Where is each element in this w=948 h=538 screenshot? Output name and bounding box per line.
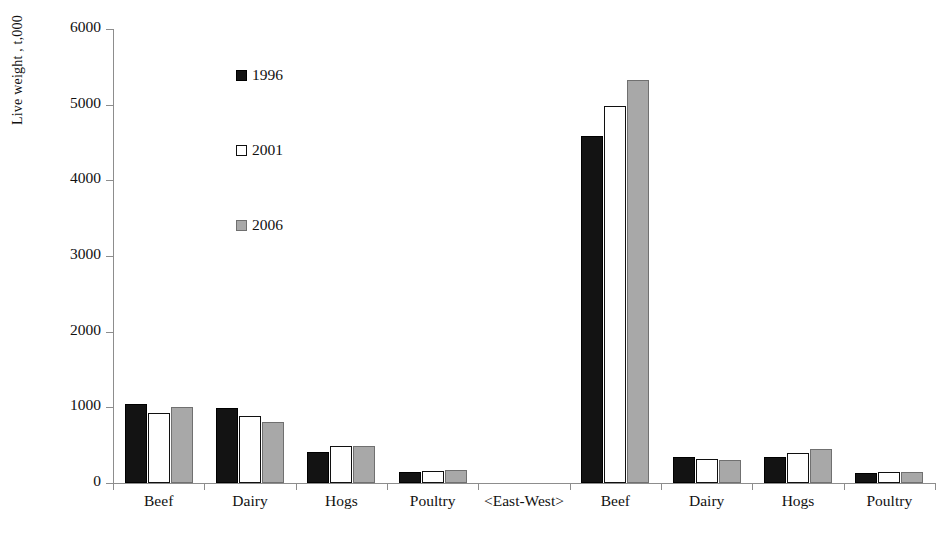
legend-label: 2001 xyxy=(252,141,283,159)
bar-2001-hogs-2 xyxy=(330,446,352,483)
y-tick-mark xyxy=(106,256,113,257)
x-axis-label-3: Poultry xyxy=(387,492,478,510)
bar-chart: Live weight , t,000 60005000400030002000… xyxy=(0,0,948,538)
bar-2006-dairy-6 xyxy=(719,460,741,483)
bar-2006-beef-5 xyxy=(627,80,649,483)
y-tick-label: 5000 xyxy=(70,94,101,112)
x-axis-label-6: Dairy xyxy=(661,492,752,510)
y-axis-title: Live weight , t,000 xyxy=(10,0,26,190)
x-axis-label-1: Dairy xyxy=(204,492,295,510)
legend-item-2006: 2006 xyxy=(236,216,283,234)
y-tick-mark xyxy=(106,29,113,30)
x-axis-line xyxy=(113,483,936,484)
y-tick-label: 3000 xyxy=(70,245,101,263)
x-axis-label-2: Hogs xyxy=(296,492,387,510)
legend-item-2001: 2001 xyxy=(236,141,283,159)
x-tick-mark xyxy=(570,483,571,490)
bar-2006-hogs-2 xyxy=(353,446,375,483)
bar-2001-beef-5 xyxy=(604,106,626,483)
x-tick-mark xyxy=(661,483,662,490)
y-tick-label: 6000 xyxy=(70,18,101,36)
y-tick-mark xyxy=(106,483,113,484)
bar-2006-beef-0 xyxy=(171,407,193,483)
bar-1996-dairy-6 xyxy=(673,457,695,483)
legend-item-1996: 1996 xyxy=(236,66,283,84)
y-tick-label: 0 xyxy=(93,472,101,490)
x-axis-label-5: Beef xyxy=(570,492,661,510)
x-tick-mark xyxy=(844,483,845,490)
x-axis-label-7: Hogs xyxy=(752,492,843,510)
bar-2001-hogs-7 xyxy=(787,453,809,483)
bar-1996-beef-0 xyxy=(125,404,147,483)
bar-2001-dairy-6 xyxy=(696,459,718,483)
x-tick-mark xyxy=(387,483,388,490)
bar-2006-poultry-3 xyxy=(445,470,467,483)
y-tick-label: 2000 xyxy=(70,321,101,339)
x-axis-label-8: Poultry xyxy=(844,492,935,510)
x-axis-label-4: <East-West> xyxy=(478,492,569,510)
legend-swatch-icon-1996 xyxy=(236,70,247,81)
plot-area: 6000500040003000200010000 xyxy=(113,29,935,483)
y-tick-label: 4000 xyxy=(70,169,101,187)
x-axis-label-0: Beef xyxy=(113,492,204,510)
bar-2001-beef-0 xyxy=(148,413,170,483)
legend-swatch-icon-2001 xyxy=(236,145,247,156)
x-tick-mark xyxy=(296,483,297,490)
bar-1996-poultry-3 xyxy=(399,472,421,483)
x-tick-mark xyxy=(204,483,205,490)
legend-label: 1996 xyxy=(252,66,283,84)
bar-2006-dairy-1 xyxy=(262,422,284,483)
y-tick-mark xyxy=(106,407,113,408)
bar-1996-hogs-2 xyxy=(307,452,329,483)
x-tick-mark xyxy=(935,483,936,490)
x-tick-mark xyxy=(113,483,114,490)
legend-label: 2006 xyxy=(252,216,283,234)
bar-1996-beef-5 xyxy=(581,136,603,483)
bar-2001-dairy-1 xyxy=(239,416,261,483)
bar-1996-hogs-7 xyxy=(764,457,786,483)
y-tick-mark xyxy=(106,180,113,181)
y-tick-mark xyxy=(106,105,113,106)
legend-swatch-icon-2006 xyxy=(236,220,247,231)
y-tick-label: 1000 xyxy=(70,396,101,414)
bar-1996-poultry-8 xyxy=(855,473,877,483)
bar-2001-poultry-3 xyxy=(422,471,444,483)
x-tick-mark xyxy=(752,483,753,490)
x-tick-mark xyxy=(478,483,479,490)
bar-2001-poultry-8 xyxy=(878,472,900,483)
bar-1996-dairy-1 xyxy=(216,408,238,483)
bar-2006-hogs-7 xyxy=(810,449,832,483)
bar-2006-poultry-8 xyxy=(901,472,923,483)
y-tick-mark xyxy=(106,332,113,333)
